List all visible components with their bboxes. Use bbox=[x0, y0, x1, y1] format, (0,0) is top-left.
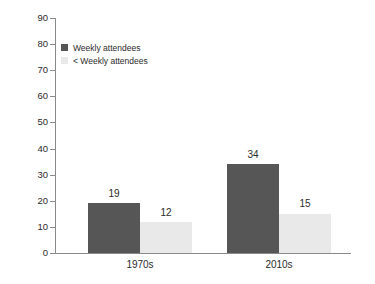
bar-value-2010s-weekly: 34 bbox=[247, 149, 258, 160]
legend: Weekly attendees < Weekly attendees bbox=[61, 41, 148, 67]
bar-2010s-less-than-weekly-attendees[interactable] bbox=[279, 214, 331, 253]
y-tick-label-0: 0 bbox=[2, 247, 48, 258]
legend-swatch-icon-weekly-attendees bbox=[61, 44, 68, 51]
y-tick-label-90: 90 bbox=[2, 12, 48, 23]
y-tick-label-10: 10 bbox=[2, 221, 48, 232]
x-category-label-1970s: 1970s bbox=[126, 259, 153, 270]
y-tick-0 bbox=[50, 253, 55, 254]
x-axis-line bbox=[55, 253, 351, 254]
y-tick-label-20: 20 bbox=[2, 195, 48, 206]
legend-item-weekly-attendees[interactable]: Weekly attendees bbox=[61, 41, 148, 54]
x-category-label-2010s: 2010s bbox=[265, 259, 292, 270]
legend-item-less-than-weekly-attendees[interactable]: < Weekly attendees bbox=[61, 54, 148, 67]
y-tick-label-70: 70 bbox=[2, 64, 48, 75]
bar-value-2010s-less-weekly: 15 bbox=[299, 198, 310, 209]
y-tick-label-60: 60 bbox=[2, 90, 48, 101]
y-tick-label-30: 30 bbox=[2, 169, 48, 180]
legend-label-less-than-weekly-attendees: < Weekly attendees bbox=[73, 56, 148, 66]
y-tick-label-40: 40 bbox=[2, 143, 48, 154]
legend-swatch-icon-less-than-weekly-attendees bbox=[61, 57, 68, 64]
bar-value-1970s-less-weekly: 12 bbox=[160, 207, 171, 218]
bar-1970s-less-than-weekly-attendees[interactable] bbox=[140, 222, 192, 253]
bar-2010s-weekly-attendees[interactable] bbox=[227, 164, 279, 253]
bar-chart: Percent conservative or extremely conser… bbox=[0, 0, 375, 284]
bar-1970s-weekly-attendees[interactable] bbox=[88, 203, 140, 253]
legend-label-weekly-attendees: Weekly attendees bbox=[73, 43, 140, 53]
bar-value-1970s-weekly: 19 bbox=[108, 188, 119, 199]
y-tick-label-50: 50 bbox=[2, 116, 48, 127]
y-tick-label-80: 80 bbox=[2, 38, 48, 49]
